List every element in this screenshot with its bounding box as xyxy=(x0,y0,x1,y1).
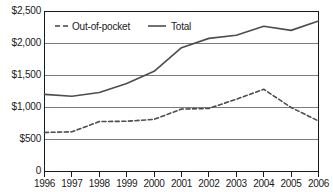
x-axis-ticks xyxy=(45,172,319,177)
gridlines xyxy=(45,44,319,140)
legend-label-total: Total xyxy=(171,21,191,32)
x-axis-tick-label-1998: 1998 xyxy=(85,178,114,189)
legend: Out-of-pocket Total xyxy=(52,18,208,35)
x-axis-tick-label-1997: 1997 xyxy=(57,178,86,189)
x-axis-tick-label-2003: 2003 xyxy=(222,178,251,189)
x-axis-tick-label-2005: 2005 xyxy=(277,178,306,189)
x-axis-tick-label-2002: 2002 xyxy=(194,178,223,189)
x-axis-tick-label-2006: 2006 xyxy=(304,178,333,189)
x-axis-tick-label-2000: 2000 xyxy=(140,178,169,189)
x-axis-tick-label-1999: 1999 xyxy=(112,178,141,189)
plot-frame xyxy=(45,12,319,172)
legend-label-out-of-pocket: Out-of-pocket xyxy=(72,21,130,32)
x-axis-tick-label-1996: 1996 xyxy=(30,178,59,189)
series-line-out-of-pocket xyxy=(45,89,319,132)
x-axis-tick-label-2004: 2004 xyxy=(249,178,278,189)
x-axis-tick-label-2001: 2001 xyxy=(167,178,196,189)
